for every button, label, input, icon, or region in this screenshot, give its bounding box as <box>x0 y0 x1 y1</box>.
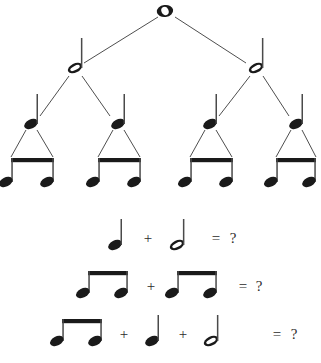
quarter-note-q1 <box>22 94 39 131</box>
quarter-note-stem <box>302 94 304 124</box>
equation-3-term-3-half-note <box>202 315 220 349</box>
equation-1-operator-plus: + <box>144 230 152 246</box>
worksheet-page: + = ? + <box>0 0 321 363</box>
tree-edge-q2-to-e2b <box>124 130 140 157</box>
equation-2-answer-blank[interactable]: ? <box>256 278 263 294</box>
tree-edge-q1-to-e1b <box>37 130 53 157</box>
equation-3-term-2-quarter-note <box>143 315 160 348</box>
equation-2-term-2-beamed-eighth-pair <box>163 271 218 300</box>
half-note-stem <box>81 38 83 68</box>
tree-edge-half-right-to-q4 <box>263 76 289 116</box>
tree-edge-half-left-to-q1 <box>40 76 69 116</box>
equations-area: + = ? + <box>0 215 321 363</box>
eighth-beam <box>98 158 141 162</box>
equation-2-term-1-beamed-eighth-pair <box>74 271 129 300</box>
tree-edges <box>11 17 316 157</box>
tree-edge-q1-to-e1a <box>11 130 26 157</box>
equation-2-operator-plus: + <box>147 278 155 294</box>
quarter-note-stem <box>158 315 160 341</box>
beamed-eighth-pair-e2 <box>84 158 142 189</box>
equation-3-equals-sign: = <box>273 326 281 342</box>
equation-3-answer-blank[interactable]: ? <box>291 326 298 342</box>
equation-1-row: + = ? <box>106 219 236 253</box>
half-note-h2 <box>247 38 265 76</box>
equation-3-term-1-beamed-eighth-pair <box>48 319 103 348</box>
tree-edge-q4-to-e4b <box>302 130 316 157</box>
quarter-note-q2 <box>109 94 126 131</box>
half-note-stem <box>262 38 264 68</box>
quarter-note-stem <box>37 94 39 124</box>
tree-edge-q4-to-e4a <box>276 130 291 157</box>
beamed-eighth-pair-e1 <box>0 158 56 189</box>
eighth-beam <box>62 319 102 323</box>
eighth-beam <box>11 158 54 162</box>
quarter-note-stem <box>124 94 126 124</box>
equation-1-term-2-half-note <box>168 219 186 253</box>
tree-edge-whole-to-half-right <box>175 17 246 63</box>
tree-edge-q2-to-e2a <box>98 130 113 157</box>
equation-1-term-1-quarter-note <box>106 219 123 252</box>
eighth-beam <box>177 271 217 275</box>
eighth-beam <box>276 158 316 162</box>
quarter-note-stem <box>121 219 123 245</box>
beamed-eighth-pair-e4 <box>262 158 317 189</box>
tree-edge-q3-to-e3a <box>190 130 205 157</box>
quarter-note-stem <box>216 94 218 124</box>
equation-1-equals-sign: = <box>212 230 220 246</box>
quarter-note-q3 <box>201 94 218 131</box>
eighth-beam <box>88 271 128 275</box>
half-note-stem <box>183 219 185 245</box>
equation-2-equals-sign: = <box>239 278 247 294</box>
tree-edge-q3-to-e3b <box>216 130 232 157</box>
beamed-eighth-pair-e3 <box>176 158 234 189</box>
equation-3-operator-plus-2: + <box>179 326 187 342</box>
eighth-beam <box>190 158 233 162</box>
whole-note-w1 <box>156 4 174 18</box>
half-note-h1 <box>66 38 84 76</box>
half-note-stem <box>217 315 219 341</box>
tree-edge-half-left-to-q2 <box>82 76 110 116</box>
quarter-note-q4 <box>287 94 304 131</box>
tree-edge-whole-to-half-left <box>84 17 158 63</box>
equation-3-operator-plus-1: + <box>120 326 128 342</box>
rhythm-tree-diagram <box>0 0 321 215</box>
tree-edge-half-right-to-q3 <box>219 76 250 116</box>
equation-1-answer-blank[interactable]: ? <box>230 230 237 246</box>
equation-2-row: + = ? <box>74 271 262 300</box>
equation-3-row: + + = ? <box>48 315 297 349</box>
